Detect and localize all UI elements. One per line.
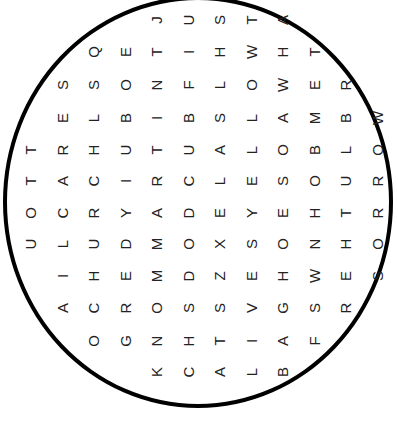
letter-cell[interactable]: H: [270, 264, 294, 288]
letter-cell[interactable]: O: [144, 296, 168, 320]
letter-cell[interactable]: A: [207, 138, 231, 162]
letter-cell[interactable]: T: [333, 201, 357, 225]
letter-cell[interactable]: O: [113, 73, 137, 97]
letter-cell[interactable]: B: [113, 106, 137, 130]
letter-cell[interactable]: C: [81, 296, 105, 320]
letter-cell[interactable]: S: [302, 296, 326, 320]
letter-cell[interactable]: E: [270, 201, 294, 225]
letter-cell[interactable]: O: [270, 138, 294, 162]
letter-cell[interactable]: V: [239, 296, 263, 320]
letter-cell[interactable]: Z: [207, 264, 231, 288]
letter-cell[interactable]: R: [365, 169, 389, 193]
letter-cell[interactable]: H: [207, 40, 231, 64]
letter-cell[interactable]: S: [365, 264, 389, 288]
letter-cell[interactable]: O: [18, 201, 42, 225]
letter-cell[interactable]: F: [176, 73, 200, 97]
letter-cell[interactable]: U: [333, 169, 357, 193]
letter-cell[interactable]: A: [207, 360, 231, 384]
letter-cell[interactable]: W: [302, 264, 326, 288]
letter-cell[interactable]: G: [270, 296, 294, 320]
letter-cell[interactable]: H: [176, 329, 200, 353]
letter-cell[interactable]: S: [207, 296, 231, 320]
letter-cell[interactable]: D: [113, 232, 137, 256]
letter-cell[interactable]: J: [144, 8, 168, 32]
letter-cell[interactable]: R: [50, 138, 74, 162]
letter-cell[interactable]: A: [270, 329, 294, 353]
letter-cell[interactable]: R: [113, 296, 137, 320]
letter-cell[interactable]: I: [176, 40, 200, 64]
letter-cell[interactable]: S: [50, 73, 74, 97]
letter-cell[interactable]: O: [239, 73, 263, 97]
letter-cell[interactable]: S: [207, 8, 231, 32]
letter-cell[interactable]: H: [333, 232, 357, 256]
letter-cell[interactable]: D: [176, 201, 200, 225]
letter-cell[interactable]: L: [81, 106, 105, 130]
letter-cell[interactable]: W: [365, 106, 389, 130]
letter-cell[interactable]: M: [144, 232, 168, 256]
letter-cell[interactable]: C: [176, 360, 200, 384]
letter-cell[interactable]: H: [270, 40, 294, 64]
letter-cell[interactable]: T: [144, 138, 168, 162]
letter-cell[interactable]: T: [207, 329, 231, 353]
letter-cell[interactable]: I: [113, 169, 137, 193]
letter-cell[interactable]: M: [302, 106, 326, 130]
letter-cell[interactable]: I: [144, 106, 168, 130]
letter-cell[interactable]: S: [270, 169, 294, 193]
letter-cell[interactable]: R: [365, 201, 389, 225]
letter-cell[interactable]: E: [302, 73, 326, 97]
letter-cell[interactable]: L: [239, 360, 263, 384]
letter-cell[interactable]: K: [144, 360, 168, 384]
letter-cell[interactable]: T: [18, 138, 42, 162]
letter-cell[interactable]: L: [50, 232, 74, 256]
letter-cell[interactable]: I: [239, 329, 263, 353]
letter-cell[interactable]: M: [144, 264, 168, 288]
letter-cell[interactable]: H: [81, 138, 105, 162]
letter-cell[interactable]: S: [176, 296, 200, 320]
letter-cell[interactable]: D: [176, 264, 200, 288]
letter-cell[interactable]: C: [176, 169, 200, 193]
letter-cell[interactable]: A: [50, 169, 74, 193]
letter-cell[interactable]: C: [81, 169, 105, 193]
letter-cell[interactable]: L: [207, 73, 231, 97]
letter-cell[interactable]: O: [270, 232, 294, 256]
letter-cell[interactable]: B: [176, 106, 200, 130]
letter-cell[interactable]: O: [302, 169, 326, 193]
letter-cell[interactable]: N: [302, 232, 326, 256]
letter-cell[interactable]: X: [207, 232, 231, 256]
letter-cell[interactable]: O: [365, 138, 389, 162]
letter-cell[interactable]: W: [239, 40, 263, 64]
letter-cell[interactable]: B: [302, 138, 326, 162]
letter-cell[interactable]: L: [239, 138, 263, 162]
letter-cell[interactable]: U: [176, 8, 200, 32]
letter-cell[interactable]: G: [113, 329, 137, 353]
letter-cell[interactable]: E: [207, 201, 231, 225]
letter-cell[interactable]: E: [333, 264, 357, 288]
letter-cell[interactable]: R: [144, 169, 168, 193]
letter-cell[interactable]: R: [81, 201, 105, 225]
letter-cell[interactable]: B: [270, 360, 294, 384]
letter-cell[interactable]: E: [239, 169, 263, 193]
letter-cell[interactable]: E: [113, 264, 137, 288]
letter-cell[interactable]: Y: [239, 201, 263, 225]
letter-cell[interactable]: T: [18, 169, 42, 193]
letter-cell[interactable]: Y: [113, 201, 137, 225]
letter-cell[interactable]: U: [176, 138, 200, 162]
letter-cell[interactable]: S: [239, 232, 263, 256]
letter-cell[interactable]: B: [333, 106, 357, 130]
letter-cell[interactable]: T: [144, 40, 168, 64]
letter-cell[interactable]: I: [50, 264, 74, 288]
letter-cell[interactable]: A: [270, 8, 294, 32]
letter-cell[interactable]: E: [239, 264, 263, 288]
letter-cell[interactable]: U: [18, 232, 42, 256]
letter-cell[interactable]: U: [81, 232, 105, 256]
letter-cell[interactable]: O: [81, 329, 105, 353]
letter-cell[interactable]: C: [50, 201, 74, 225]
letter-cell[interactable]: L: [239, 106, 263, 130]
letter-cell[interactable]: E: [113, 40, 137, 64]
letter-cell[interactable]: O: [176, 232, 200, 256]
letter-cell[interactable]: F: [302, 329, 326, 353]
letter-cell[interactable]: U: [113, 138, 137, 162]
letter-cell[interactable]: L: [333, 138, 357, 162]
letter-cell[interactable]: H: [81, 264, 105, 288]
letter-cell[interactable]: L: [207, 169, 231, 193]
